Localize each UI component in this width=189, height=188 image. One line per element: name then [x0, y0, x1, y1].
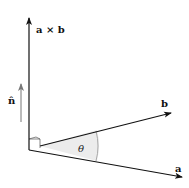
cross-product-diagram: a × b n̂ b a θ: [0, 0, 189, 188]
vector-a-label: a: [175, 163, 182, 174]
vector-a-arrow: [29, 150, 182, 177]
vector-b-arrow: [40, 113, 171, 146]
theta-label: θ: [78, 143, 84, 154]
right-angle-marker: [29, 137, 40, 148]
cross-product-label: a × b: [36, 24, 65, 35]
angle-wedge: [40, 130, 99, 161]
vector-b-label: b: [161, 98, 168, 109]
normal-label: n̂: [8, 95, 16, 106]
